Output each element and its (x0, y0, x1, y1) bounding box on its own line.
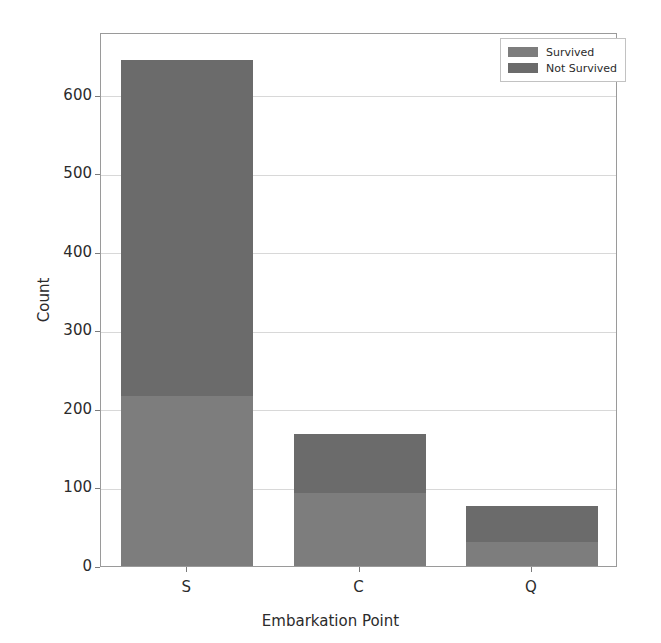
y-tick-label: 200 (40, 402, 92, 417)
x-tick-label: S (146, 580, 226, 595)
y-tick-label: 600 (40, 88, 92, 103)
legend-item-survived: Survived (508, 44, 617, 60)
bar-segment-not-survived[interactable] (121, 60, 253, 395)
plot-area (100, 33, 617, 567)
bar-segment-not-survived[interactable] (294, 434, 426, 493)
x-tick-mark (359, 567, 360, 572)
legend-label-not-survived: Not Survived (546, 63, 617, 74)
bar-segment-not-survived[interactable] (466, 506, 598, 543)
x-tick-mark (531, 567, 532, 572)
legend-swatch-not-survived (508, 63, 538, 73)
x-axis-title: Embarkation Point (0, 612, 661, 630)
bar-stack[interactable] (121, 60, 253, 566)
bar-stack[interactable] (294, 434, 426, 566)
y-tick-mark (95, 567, 100, 568)
bar-segment-survived[interactable] (466, 542, 598, 566)
y-tick-label: 500 (40, 166, 92, 181)
y-tick-label: 100 (40, 480, 92, 495)
legend-label-survived: Survived (546, 47, 594, 58)
x-tick-mark (186, 567, 187, 572)
legend-item-not-survived: Not Survived (508, 60, 617, 76)
y-axis-title: Count (35, 278, 53, 323)
bar-stack[interactable] (466, 506, 598, 566)
chart-legend: Survived Not Survived (500, 38, 626, 82)
legend-swatch-survived (508, 47, 538, 57)
y-tick-label: 0 (40, 559, 92, 574)
x-tick-label: Q (491, 580, 571, 595)
y-tick-label: 400 (40, 245, 92, 260)
bar-segment-survived[interactable] (294, 493, 426, 566)
bar-segment-survived[interactable] (121, 396, 253, 566)
chart-figure: Count Embarkation Point 0100200300400500… (0, 0, 661, 643)
x-tick-label: C (319, 580, 399, 595)
y-tick-label: 300 (40, 323, 92, 338)
